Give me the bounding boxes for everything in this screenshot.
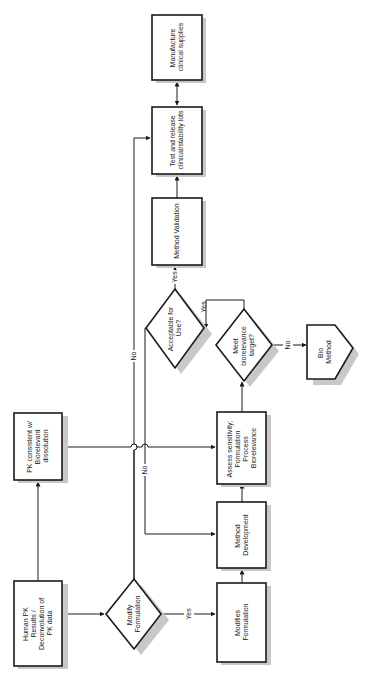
edge-pkconsistent-assess bbox=[62, 444, 215, 447]
edge-label-acceptable-yes: Yes bbox=[171, 271, 178, 283]
edge-label-acceptable-no: No bbox=[141, 465, 148, 474]
edge-label-modify-yes: Yes bbox=[185, 608, 192, 620]
label-manufacture: Manufacture clinical supplies bbox=[169, 22, 185, 71]
edge-label-meet-no: No bbox=[284, 340, 291, 349]
label-test-release: Test and release clinical/stability lots bbox=[169, 110, 185, 170]
edge-label-modify-no: No bbox=[130, 351, 137, 360]
label-method-validation: Method Validation bbox=[173, 203, 180, 259]
label-modifies-formulation: Modifies Formulation bbox=[234, 603, 249, 640]
edge-label-meet-yes: Yes bbox=[200, 301, 207, 313]
flowchart: Human PK Results / Deconvolution of PK d… bbox=[0, 0, 372, 673]
